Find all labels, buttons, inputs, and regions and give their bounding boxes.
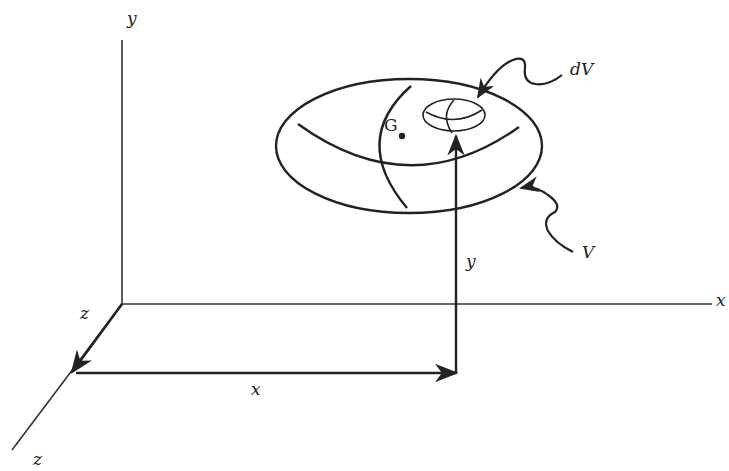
diagram-drawing: [0, 0, 729, 471]
x-dimension-label: x: [251, 381, 261, 398]
volume-contour-vertical: [379, 86, 411, 208]
coordinate-axes: [12, 40, 712, 450]
volume-outline: [276, 79, 542, 213]
diagram-canvas: y x z z x y G dV V: [0, 0, 729, 471]
dV-leader-arrow: [478, 59, 562, 97]
volume-element-dV: [423, 99, 485, 133]
volume-contour-horizontal: [298, 124, 519, 165]
V-leader-arrow: [521, 187, 573, 252]
centroid-point: [399, 133, 405, 139]
centroid-label: G: [384, 117, 398, 134]
x-axis-label: x: [716, 292, 726, 309]
z-near-label: z: [80, 305, 89, 322]
y-axis-label: y: [127, 10, 137, 27]
element-label: dV: [570, 61, 593, 78]
y-dimension-label: y: [466, 253, 476, 270]
volume-body: [276, 79, 542, 213]
z-far-label: z: [33, 451, 42, 468]
volume-label: V: [582, 244, 594, 261]
